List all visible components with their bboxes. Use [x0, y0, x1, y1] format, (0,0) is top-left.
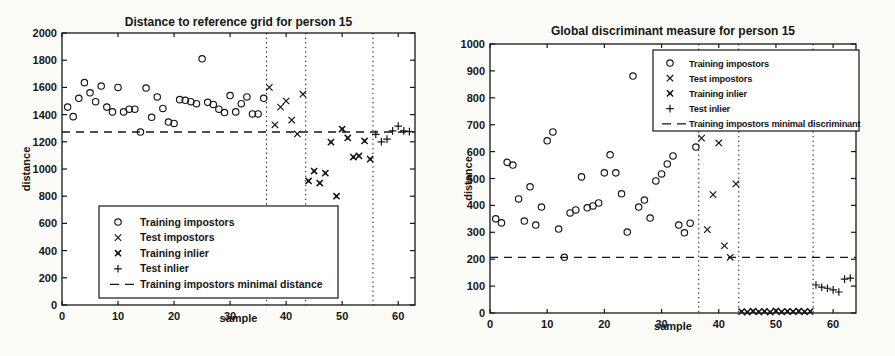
discriminant-chart: 0102030405060010020030040050060070080090… — [460, 0, 895, 356]
y-tick-label: 400 — [39, 245, 57, 257]
distance-chart: 0102030405060020040060080010001200140016… — [0, 0, 460, 356]
x-tick-label: 0 — [59, 310, 65, 322]
y-tick-label: 1200 — [33, 136, 57, 148]
legend-entry: Training impostors minimal distance — [140, 278, 323, 290]
y-tick-label: 1000 — [33, 163, 57, 175]
x-tick-label: 20 — [598, 318, 610, 330]
legend-entry: Test impostors — [689, 74, 752, 84]
scanned-figure-page: 0102030405060020040060080010001200140016… — [0, 0, 895, 356]
y-tick-label: 0 — [51, 299, 57, 311]
x-tick-label: 40 — [280, 310, 292, 322]
legend-entry: Training impostors — [689, 59, 769, 69]
legend-entry: Training impostors minimal discriminant — [689, 119, 861, 129]
y-tick-label: 200 — [467, 253, 485, 265]
chart-title: Global discriminant measure for person 1… — [551, 24, 795, 38]
y-tick-label: 1400 — [33, 109, 57, 121]
y-tick-label: 800 — [39, 190, 57, 202]
x-tick-label: 40 — [713, 318, 725, 330]
y-tick-label: 600 — [467, 146, 485, 158]
y-tick-label: 700 — [467, 119, 485, 131]
legend-entry: Test impostors — [140, 231, 215, 243]
y-tick-label: 1600 — [33, 81, 57, 93]
x-tick-label: 60 — [392, 310, 404, 322]
y-axis-label: distance — [462, 156, 474, 201]
y-tick-label: 600 — [39, 217, 57, 229]
x-tick-label: 50 — [770, 318, 782, 330]
y-tick-label: 100 — [467, 280, 485, 292]
x-tick-label: 10 — [112, 310, 124, 322]
legend-entry: Training impostors — [140, 216, 235, 228]
x-tick-label: 0 — [487, 318, 493, 330]
legend: Training impostorsTest impostorsTraining… — [653, 50, 861, 131]
y-tick-label: 200 — [39, 272, 57, 284]
y-tick-label: 900 — [467, 65, 485, 77]
x-tick-label: 60 — [827, 318, 839, 330]
x-tick-label: 10 — [541, 318, 553, 330]
x-tick-label: 20 — [168, 310, 180, 322]
y-tick-label: 300 — [467, 226, 485, 238]
legend: Training impostorsTest impostorsTraining… — [99, 206, 338, 298]
y-tick-label: 1000 — [461, 38, 485, 50]
y-axis-label: distance — [20, 147, 32, 192]
legend-entry: Test inlier — [140, 262, 189, 274]
chart-title: Distance to reference grid for person 15 — [125, 15, 353, 29]
y-tick-label: 0 — [479, 307, 485, 319]
y-tick-label: 2000 — [33, 27, 57, 39]
legend-entry: Test inlier — [689, 104, 731, 114]
y-tick-label: 800 — [467, 92, 485, 104]
legend-entry: Training inlier — [140, 247, 209, 259]
x-axis-label: sample — [220, 312, 258, 324]
legend-entry: Training inlier — [689, 89, 748, 99]
x-tick-label: 50 — [336, 310, 348, 322]
y-tick-label: 1800 — [33, 54, 57, 66]
x-axis-label: sample — [654, 320, 692, 332]
